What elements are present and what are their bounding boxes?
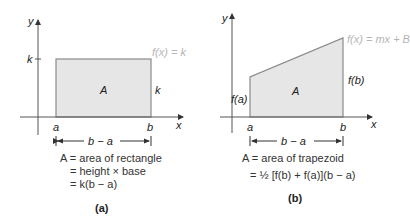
b-label: b: [340, 121, 346, 133]
panel-a-rectangle: y x k f(x) = k A k a b b − a A = area of…: [20, 15, 186, 214]
function-label: f(x) = k: [152, 46, 186, 58]
panel-b-trapezoid: y x f(x) = mx + B A f(a) f(b) a b b − a …: [220, 12, 410, 204]
y-tick-label: k: [27, 53, 33, 65]
equation-line-3: = k(b − a): [70, 178, 117, 190]
region-label: A: [291, 85, 299, 97]
a-label: a: [247, 121, 253, 133]
region-label: A: [99, 84, 107, 96]
width-label: b − a: [88, 135, 113, 147]
f-a-label: f(a): [231, 93, 248, 105]
a-label: a: [53, 121, 59, 133]
f-b-label: f(b): [348, 74, 365, 86]
height-label: k: [155, 84, 161, 96]
width-dimension: b − a: [250, 135, 343, 147]
x-axis-label: x: [370, 118, 377, 130]
function-label: f(x) = mx + B: [347, 33, 410, 45]
caption-b: (b): [288, 192, 302, 204]
x-axis-label: x: [175, 119, 182, 131]
equation-line-1: A = area of trapezoid: [242, 152, 344, 164]
y-axis-label: y: [221, 12, 229, 24]
width-dimension: b − a: [56, 135, 151, 147]
caption-a: (a): [95, 202, 109, 214]
equation-line-2: = height × base: [70, 165, 146, 177]
equation-line-1: A = area of rectangle: [60, 152, 162, 164]
trapezoid-region: [250, 38, 343, 117]
equation-line-2: = ½ [f(b) + f(a)](b − a): [250, 169, 355, 181]
y-axis-label: y: [27, 15, 35, 27]
b-label: b: [147, 121, 153, 133]
area-diagrams: y x k f(x) = k A k a b b − a A = area of…: [0, 0, 410, 219]
width-label: b − a: [281, 135, 306, 147]
